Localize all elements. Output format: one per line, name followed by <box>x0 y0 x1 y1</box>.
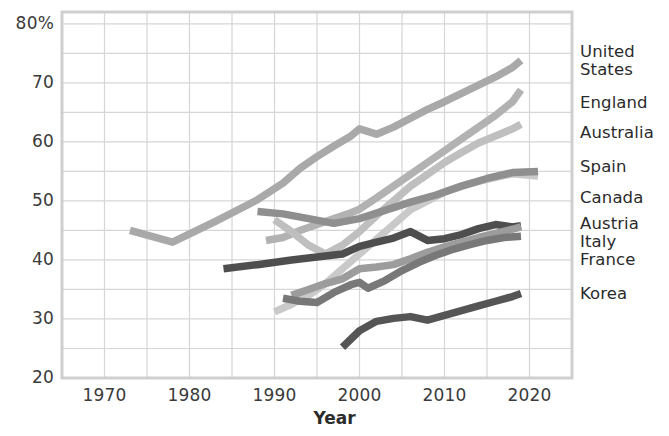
x-tick-2020: 2020 <box>490 385 570 405</box>
y-tick-30: 30 <box>32 308 54 328</box>
x-tick-2010: 2010 <box>405 385 485 405</box>
series-label-united-states: UnitedStates <box>580 43 635 79</box>
series-label-spain: Spain <box>580 158 627 176</box>
series-label-italy: Italy <box>580 233 616 251</box>
x-tick-2000: 2000 <box>320 385 400 405</box>
x-tick-1990: 1990 <box>235 385 315 405</box>
line-chart: 20304050607080% 197019801990200020102020… <box>0 0 669 436</box>
grid-lines <box>62 12 572 378</box>
series-line-korea <box>343 294 522 348</box>
x-tick-1970: 1970 <box>65 385 145 405</box>
series-label-austria: Austria <box>580 215 639 233</box>
series-label-england: England <box>580 94 648 112</box>
series-label-korea: Korea <box>580 285 627 303</box>
plot-canvas <box>0 0 669 436</box>
y-tick-40: 40 <box>32 249 54 269</box>
x-tick-1980: 1980 <box>150 385 230 405</box>
x-axis-title: Year <box>0 408 669 428</box>
series-label-france: France <box>580 251 635 269</box>
y-tick-80: 80% <box>16 13 54 33</box>
y-tick-50: 50 <box>32 190 54 210</box>
y-tick-60: 60 <box>32 131 54 151</box>
y-tick-20: 20 <box>32 367 54 387</box>
series-label-canada: Canada <box>580 189 643 207</box>
series-label-australia: Australia <box>580 124 654 142</box>
y-tick-70: 70 <box>32 72 54 92</box>
